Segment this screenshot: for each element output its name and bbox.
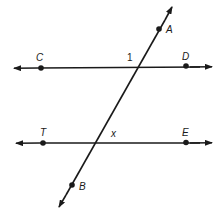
- label-d: D: [182, 51, 189, 62]
- line-cd: [38, 67, 200, 68]
- label-t: T: [40, 127, 47, 138]
- geometry-diagram: A B C D T E 1 x: [0, 0, 220, 223]
- point-a: [156, 26, 162, 32]
- label-e: E: [182, 127, 189, 138]
- angle-1-label: 1: [127, 52, 133, 63]
- point-d: [183, 63, 189, 69]
- point-b: [69, 182, 75, 188]
- transversal-ab: [66, 20, 165, 195]
- label-c: C: [36, 52, 44, 63]
- point-e: [183, 140, 189, 146]
- point-t: [40, 140, 46, 146]
- label-b: B: [79, 181, 86, 192]
- label-a: A: [165, 24, 173, 35]
- point-c: [38, 65, 44, 71]
- transversal-arrow-bottom: [59, 195, 66, 207]
- angle-x-label: x: [110, 128, 117, 139]
- transversal-arrow-top: [165, 7, 172, 20]
